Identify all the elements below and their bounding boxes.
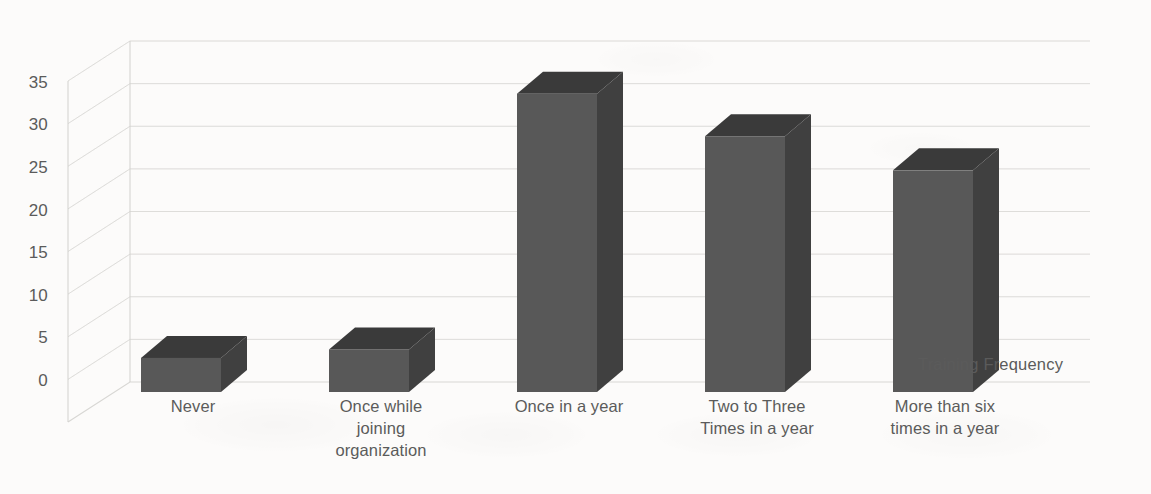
y-tick-label-20: 20 [0, 201, 48, 221]
bar-front-face [329, 349, 409, 392]
x-category-label-3: Two to ThreeTimes in a year [672, 396, 842, 440]
bar-front-face [517, 94, 597, 392]
x-category-label-line: Never [108, 396, 278, 418]
y-tick-label-10: 10 [0, 286, 48, 306]
x-category-label-2: Once in a year [484, 396, 654, 418]
x-category-label-line: Once while [296, 396, 466, 418]
x-category-label-1: Once whilejoiningorganization [296, 396, 466, 461]
y-tick-label-5: 5 [0, 328, 48, 348]
x-category-label-line: More than six [860, 396, 1030, 418]
bar-column [705, 114, 811, 392]
x-category-label-line: Times in a year [672, 418, 842, 440]
x-category-label-line: Once in a year [484, 396, 654, 418]
x-category-label-line: joining [296, 418, 466, 440]
chart-container: 05101520253035 NeverOnce whilejoiningorg… [0, 0, 1151, 494]
y-tick-label-35: 35 [0, 73, 48, 93]
bar-front-face [141, 358, 221, 392]
x-category-label-line: organization [296, 440, 466, 462]
legend-series-training-frequency: Training Frequency [918, 355, 1063, 374]
y-tick-label-25: 25 [0, 158, 48, 178]
x-category-label-4: More than sixtimes in a year [860, 396, 1030, 440]
bar-front-face [705, 136, 785, 392]
x-category-label-line: Two to Three [672, 396, 842, 418]
bar-column [329, 327, 435, 392]
y-tick-label-0: 0 [0, 371, 48, 391]
bar-side-face [785, 114, 811, 392]
y-tick-label-30: 30 [0, 115, 48, 135]
bar-column [141, 336, 247, 392]
bar-side-face [597, 72, 623, 392]
y-tick-label-15: 15 [0, 243, 48, 263]
bar-series-group [141, 72, 999, 392]
x-category-label-line: times in a year [860, 418, 1030, 440]
x-category-label-0: Never [108, 396, 278, 418]
bar-column [517, 72, 623, 392]
